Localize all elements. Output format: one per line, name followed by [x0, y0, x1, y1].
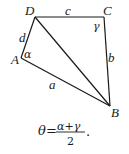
side-label-b: b: [108, 50, 115, 65]
side-label-c: c: [65, 3, 71, 18]
vertex-label-b: B: [111, 105, 119, 120]
formula: θ = α+γ 2 .: [38, 120, 90, 148]
side-label-a: a: [49, 77, 56, 92]
formula-numerator: α+γ: [57, 120, 81, 133]
formula-theta: θ: [38, 123, 46, 138]
formula-denominator: 2: [67, 135, 74, 148]
vertex-label-d: D: [24, 3, 35, 18]
vertex-label-c: C: [103, 3, 112, 18]
formula-period: .: [86, 124, 90, 139]
angle-label-alpha: α: [24, 48, 32, 61]
vertex-label-a: A: [10, 52, 19, 67]
quadrilateral-diagram: D C A B c d b a α γ θ = α+γ 2 .: [0, 0, 129, 154]
formula-equals: =: [46, 123, 57, 138]
angle-label-gamma: γ: [93, 20, 100, 33]
side-a-edge: [21, 58, 110, 106]
side-label-d: d: [19, 30, 26, 45]
